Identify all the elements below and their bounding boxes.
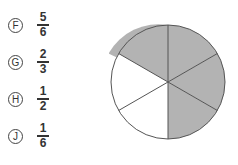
numerator: 5 [40,12,47,23]
fraction-h: 1 2 [37,86,49,111]
answer-choice-f[interactable]: F 5 6 [8,10,49,40]
answer-choice-j[interactable]: J 1 6 [8,121,49,151]
answer-choice-h[interactable]: H 1 2 [8,84,49,114]
answer-choice-g[interactable]: G 2 3 [8,47,49,77]
fraction-g: 2 3 [37,49,49,74]
fraction-pie-chart [109,23,229,143]
numerator: 1 [40,123,47,134]
denominator: 6 [40,138,47,149]
answer-bubble-j[interactable]: J [8,129,23,144]
answer-bubble-f[interactable]: F [8,18,23,33]
denominator: 6 [40,27,47,38]
denominator: 3 [40,64,47,75]
fraction-f: 5 6 [37,12,49,37]
numerator: 1 [40,86,47,97]
fraction-j: 1 6 [37,123,49,148]
denominator: 2 [40,101,47,112]
answer-bubble-h[interactable]: H [8,92,23,107]
numerator: 2 [40,49,47,60]
answer-bubble-g[interactable]: G [8,55,23,70]
